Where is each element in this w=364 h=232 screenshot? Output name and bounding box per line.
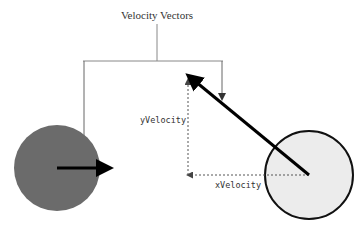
y-velocity-label: yVelocity: [140, 115, 186, 125]
title-leader-bracket: [83, 24, 223, 166]
diagram-title: Velocity Vectors: [121, 9, 193, 21]
light-ball-velocity-arrow: [190, 77, 309, 175]
x-velocity-label: xVelocity: [215, 180, 261, 190]
velocity-vectors-diagram: Velocity Vectors yVelocity xVelocity: [0, 0, 364, 232]
